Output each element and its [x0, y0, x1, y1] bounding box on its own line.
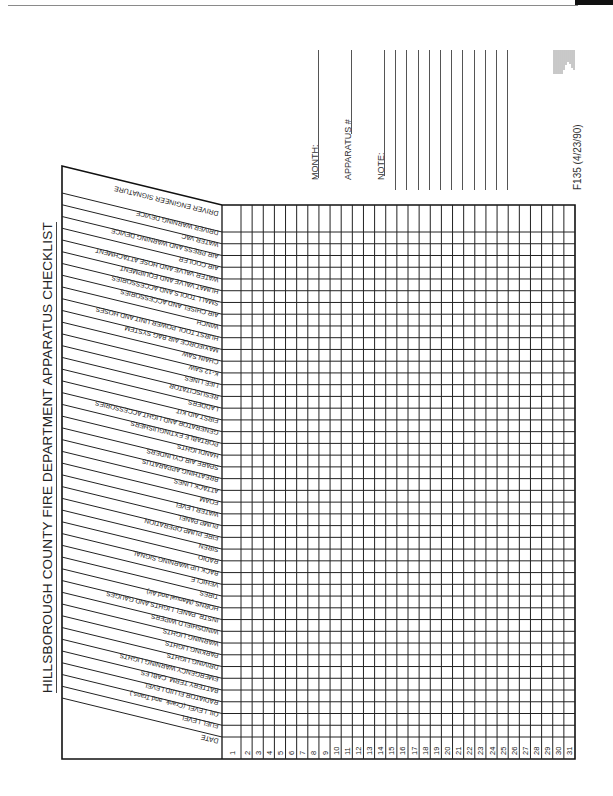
check-cell[interactable] — [263, 690, 274, 702]
check-cell[interactable] — [241, 549, 252, 561]
check-cell[interactable] — [319, 584, 330, 596]
check-cell[interactable] — [453, 502, 464, 514]
check-cell[interactable] — [330, 537, 341, 549]
check-cell[interactable] — [530, 244, 541, 256]
check-cell[interactable] — [519, 267, 530, 279]
check-cell[interactable] — [352, 631, 363, 643]
check-cell[interactable] — [553, 655, 564, 667]
check-cell[interactable] — [564, 537, 575, 549]
check-cell[interactable] — [542, 420, 553, 432]
check-cell[interactable] — [375, 514, 386, 526]
check-cell[interactable] — [308, 631, 319, 643]
check-cell[interactable] — [497, 725, 508, 737]
check-cell[interactable] — [430, 291, 441, 303]
check-cell[interactable] — [464, 443, 475, 455]
check-cell[interactable] — [408, 291, 419, 303]
check-cell[interactable] — [475, 314, 486, 326]
check-cell[interactable] — [441, 690, 452, 702]
check-cell[interactable] — [363, 338, 374, 350]
signature-cell[interactable] — [286, 205, 297, 232]
check-cell[interactable] — [564, 255, 575, 267]
check-cell[interactable] — [352, 291, 363, 303]
check-cell[interactable] — [319, 596, 330, 608]
check-cell[interactable] — [263, 702, 274, 714]
check-cell[interactable] — [386, 396, 397, 408]
check-cell[interactable] — [263, 467, 274, 479]
check-cell[interactable] — [330, 655, 341, 667]
check-cell[interactable] — [430, 690, 441, 702]
check-cell[interactable] — [263, 373, 274, 385]
check-cell[interactable] — [386, 620, 397, 632]
check-cell[interactable] — [286, 467, 297, 479]
check-cell[interactable] — [341, 667, 352, 679]
check-cell[interactable] — [519, 702, 530, 714]
check-cell[interactable] — [375, 408, 386, 420]
check-cell[interactable] — [564, 443, 575, 455]
check-cell[interactable] — [375, 631, 386, 643]
check-cell[interactable] — [530, 643, 541, 655]
check-cell[interactable] — [222, 502, 241, 514]
check-cell[interactable] — [542, 573, 553, 585]
check-cell[interactable] — [508, 561, 519, 573]
check-cell[interactable] — [352, 420, 363, 432]
check-cell[interactable] — [375, 455, 386, 467]
check-cell[interactable] — [330, 408, 341, 420]
check-cell[interactable] — [475, 467, 486, 479]
check-cell[interactable] — [564, 420, 575, 432]
check-cell[interactable] — [341, 467, 352, 479]
check-cell[interactable] — [241, 502, 252, 514]
check-cell[interactable] — [453, 631, 464, 643]
check-cell[interactable] — [475, 443, 486, 455]
check-cell[interactable] — [497, 490, 508, 502]
check-cell[interactable] — [553, 643, 564, 655]
check-cell[interactable] — [475, 631, 486, 643]
check-cell[interactable] — [274, 714, 285, 726]
check-cell[interactable] — [319, 420, 330, 432]
check-cell[interactable] — [419, 314, 430, 326]
check-cell[interactable] — [530, 361, 541, 373]
check-cell[interactable] — [419, 361, 430, 373]
signature-cell[interactable] — [553, 205, 564, 232]
check-cell[interactable] — [241, 443, 252, 455]
check-cell[interactable] — [341, 255, 352, 267]
check-cell[interactable] — [564, 714, 575, 726]
check-cell[interactable] — [519, 244, 530, 256]
check-cell[interactable] — [352, 490, 363, 502]
note-line[interactable] — [384, 50, 385, 176]
check-cell[interactable] — [419, 302, 430, 314]
check-cell[interactable] — [441, 643, 452, 655]
check-cell[interactable] — [486, 561, 497, 573]
check-cell[interactable] — [386, 232, 397, 244]
signature-cell[interactable] — [386, 205, 397, 232]
check-cell[interactable] — [397, 326, 408, 338]
check-cell[interactable] — [308, 667, 319, 679]
check-cell[interactable] — [508, 714, 519, 726]
check-cell[interactable] — [430, 361, 441, 373]
check-cell[interactable] — [319, 549, 330, 561]
check-cell[interactable] — [397, 479, 408, 491]
check-cell[interactable] — [530, 678, 541, 690]
check-cell[interactable] — [486, 326, 497, 338]
check-cell[interactable] — [375, 267, 386, 279]
check-cell[interactable] — [297, 526, 308, 538]
check-cell[interactable] — [486, 608, 497, 620]
check-cell[interactable] — [263, 232, 274, 244]
check-cell[interactable] — [308, 408, 319, 420]
check-cell[interactable] — [330, 631, 341, 643]
check-cell[interactable] — [464, 502, 475, 514]
check-cell[interactable] — [352, 596, 363, 608]
check-cell[interactable] — [408, 385, 419, 397]
check-cell[interactable] — [319, 361, 330, 373]
check-cell[interactable] — [441, 479, 452, 491]
check-cell[interactable] — [252, 714, 263, 726]
check-cell[interactable] — [263, 608, 274, 620]
check-cell[interactable] — [430, 420, 441, 432]
check-cell[interactable] — [508, 432, 519, 444]
check-cell[interactable] — [241, 561, 252, 573]
check-cell[interactable] — [408, 702, 419, 714]
check-cell[interactable] — [375, 279, 386, 291]
check-cell[interactable] — [497, 443, 508, 455]
check-cell[interactable] — [286, 326, 297, 338]
check-cell[interactable] — [441, 314, 452, 326]
check-cell[interactable] — [519, 667, 530, 679]
